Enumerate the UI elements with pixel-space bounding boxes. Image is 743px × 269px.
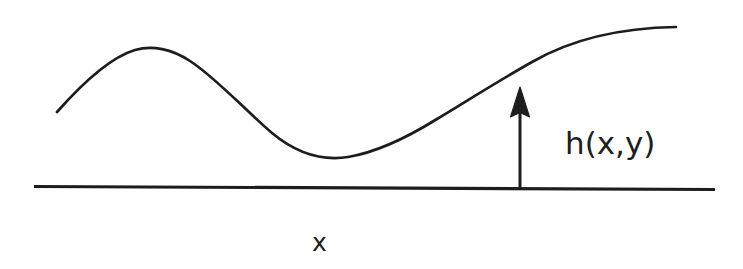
up-arrow-icon [511, 87, 530, 117]
horizontal-baseline-icon [34, 187, 715, 190]
x-axis-label: x [312, 230, 327, 255]
height-function-label: h(x,y) [565, 128, 655, 159]
figure-canvas: h(x,y) x [0, 0, 743, 269]
